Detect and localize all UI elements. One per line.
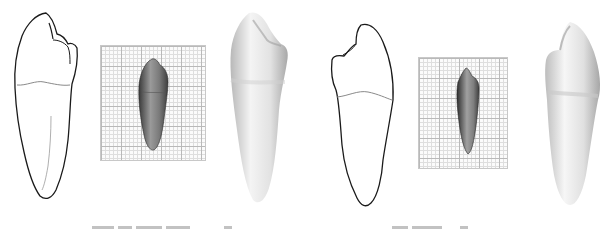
tooth-specimen-photo-b bbox=[452, 66, 486, 164]
caption-glyph-fragment bbox=[136, 226, 162, 229]
tooth-specimen-photo-a bbox=[130, 55, 180, 155]
caption-glyph-fragment bbox=[412, 226, 442, 229]
caption-right-truncated bbox=[392, 226, 502, 232]
caption-glyph-fragment bbox=[392, 226, 408, 229]
tooth-shaded-render-b bbox=[510, 0, 607, 215]
tooth-shaded-render-a bbox=[215, 0, 315, 215]
caption-glyph-fragment bbox=[460, 226, 468, 229]
caption-glyph-fragment bbox=[118, 226, 132, 229]
caption-glyph-fragment bbox=[224, 226, 232, 229]
tooth-outline-drawing-a bbox=[0, 0, 100, 215]
tooth-outline-drawing-b bbox=[320, 0, 420, 215]
caption-left-truncated bbox=[92, 226, 262, 232]
caption-glyph-fragment bbox=[166, 226, 190, 229]
caption-glyph-fragment bbox=[92, 226, 114, 229]
